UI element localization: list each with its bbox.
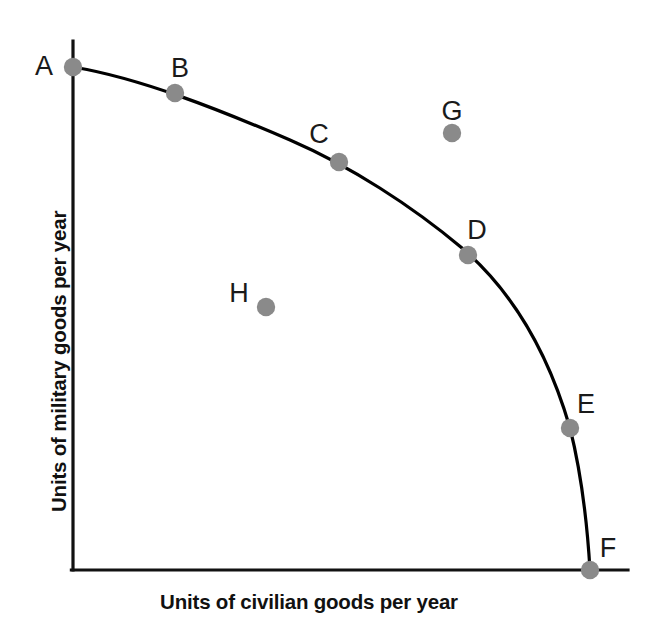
data-point-d[interactable] <box>459 246 477 264</box>
point-label-c: C <box>309 121 329 148</box>
data-point-b[interactable] <box>166 84 184 102</box>
point-label-h: H <box>229 280 249 307</box>
data-point-e[interactable] <box>561 419 579 437</box>
point-label-e: E <box>577 391 595 418</box>
axes <box>71 41 628 570</box>
data-point-g[interactable] <box>443 124 461 142</box>
data-point-a[interactable] <box>64 58 82 76</box>
data-point-c[interactable] <box>330 153 348 171</box>
point-label-a: A <box>35 53 53 80</box>
ppf-plot-area <box>0 0 662 637</box>
point-label-d: D <box>467 217 487 244</box>
data-point-f[interactable] <box>581 561 599 579</box>
ppf-curve-path <box>73 67 590 570</box>
point-label-f: F <box>600 535 617 562</box>
data-point-markers <box>64 58 599 579</box>
ppf-curve <box>73 67 590 570</box>
x-axis-title: Units of civilian goods per year <box>160 592 458 613</box>
point-label-g: G <box>441 98 462 125</box>
point-label-b: B <box>171 55 189 82</box>
data-point-h[interactable] <box>257 298 275 316</box>
ppf-chart: A B C D E F G H Units of civilian goods … <box>0 0 662 637</box>
y-axis-title: Units of military goods per year <box>49 211 70 512</box>
